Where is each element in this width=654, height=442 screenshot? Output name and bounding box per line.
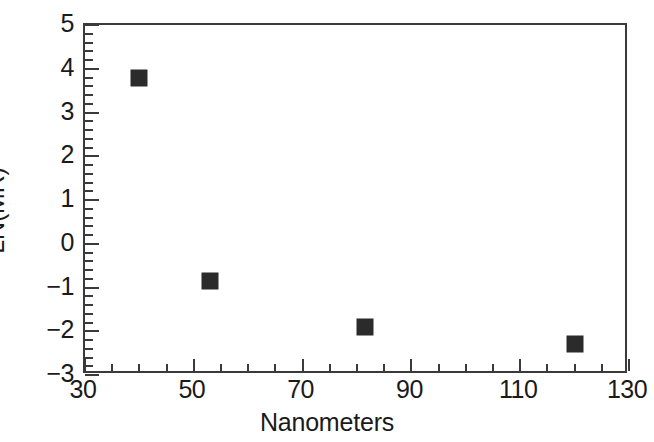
y-tick-minor bbox=[85, 269, 93, 271]
x-tick-label: 50 bbox=[178, 377, 205, 402]
y-tick-label: 4 bbox=[0, 54, 74, 79]
x-tick-major bbox=[302, 359, 304, 371]
y-tick-major bbox=[85, 155, 99, 157]
x-tick-minor bbox=[574, 364, 576, 371]
x-tick-major bbox=[628, 359, 630, 371]
y-tick-minor bbox=[85, 208, 93, 210]
data-point-marker bbox=[357, 318, 374, 335]
y-tick-minor bbox=[85, 278, 93, 280]
y-tick-minor bbox=[85, 357, 93, 359]
y-tick-minor bbox=[85, 59, 93, 61]
y-tick-major bbox=[85, 287, 99, 289]
x-tick-label: 90 bbox=[396, 377, 423, 402]
x-tick-major bbox=[519, 359, 521, 371]
y-tick-minor bbox=[85, 182, 93, 184]
y-tick-minor bbox=[85, 164, 93, 166]
y-tick-minor bbox=[85, 42, 93, 44]
y-tick-label: 0 bbox=[0, 229, 74, 254]
y-tick-minor bbox=[85, 225, 93, 227]
x-tick-major bbox=[84, 359, 86, 371]
y-tick-minor bbox=[85, 50, 93, 52]
x-tick-minor bbox=[383, 364, 385, 371]
y-tick-minor bbox=[85, 339, 93, 341]
scatter-chart-figure: LN(MR) 543210−1−2−3 30507090110130 Nanom… bbox=[0, 0, 654, 442]
x-tick-minor bbox=[329, 364, 331, 371]
y-tick-major bbox=[85, 330, 99, 332]
x-tick-minor bbox=[274, 364, 276, 371]
x-tick-minor bbox=[220, 364, 222, 371]
y-tick-minor bbox=[85, 304, 93, 306]
y-tick-label: −1 bbox=[0, 273, 74, 298]
x-tick-minor bbox=[546, 364, 548, 371]
y-tick-major bbox=[85, 374, 99, 376]
y-tick-minor bbox=[85, 33, 93, 35]
y-tick-label: 3 bbox=[0, 98, 74, 123]
x-tick-minor bbox=[111, 364, 113, 371]
y-tick-major bbox=[85, 68, 99, 70]
y-tick-minor bbox=[85, 138, 93, 140]
y-tick-minor bbox=[85, 313, 93, 315]
y-tick-label: −3 bbox=[0, 361, 74, 386]
y-tick-minor bbox=[85, 85, 93, 87]
y-tick-minor bbox=[85, 129, 93, 131]
x-tick-minor bbox=[601, 364, 603, 371]
y-tick-label: 2 bbox=[0, 142, 74, 167]
y-tick-minor bbox=[85, 120, 93, 122]
y-tick-label: 1 bbox=[0, 186, 74, 211]
y-tick-minor bbox=[85, 234, 93, 236]
y-tick-major bbox=[85, 112, 99, 114]
y-tick-minor bbox=[85, 348, 93, 350]
x-tick-minor bbox=[356, 364, 358, 371]
x-tick-major bbox=[410, 359, 412, 371]
x-tick-minor bbox=[492, 364, 494, 371]
y-tick-label: 5 bbox=[0, 11, 74, 36]
y-tick-minor bbox=[85, 252, 93, 254]
y-tick-minor bbox=[85, 173, 93, 175]
y-tick-minor bbox=[85, 147, 93, 149]
y-tick-minor bbox=[85, 94, 93, 96]
y-tick-major bbox=[85, 199, 99, 201]
y-tick-minor bbox=[85, 260, 93, 262]
y-tick-major bbox=[85, 243, 99, 245]
x-tick-label: 130 bbox=[607, 377, 647, 402]
x-tick-minor bbox=[438, 364, 440, 371]
y-tick-label: −2 bbox=[0, 317, 74, 342]
x-tick-minor bbox=[247, 364, 249, 371]
y-tick-minor bbox=[85, 190, 93, 192]
x-tick-major bbox=[193, 359, 195, 371]
x-tick-minor bbox=[138, 364, 140, 371]
y-tick-minor bbox=[85, 322, 93, 324]
y-tick-major bbox=[85, 24, 99, 26]
x-tick-minor bbox=[465, 364, 467, 371]
y-tick-minor bbox=[85, 295, 93, 297]
x-tick-label: 30 bbox=[70, 377, 97, 402]
x-axis-title: Nanometers bbox=[0, 410, 654, 435]
x-tick-minor bbox=[166, 364, 168, 371]
data-point-marker bbox=[566, 336, 583, 353]
data-point-marker bbox=[202, 272, 219, 289]
x-tick-label: 70 bbox=[287, 377, 314, 402]
y-tick-minor bbox=[85, 365, 93, 367]
y-tick-minor bbox=[85, 103, 93, 105]
y-tick-minor bbox=[85, 77, 93, 79]
data-point-marker bbox=[131, 69, 148, 86]
x-tick-label: 110 bbox=[499, 377, 537, 402]
y-tick-minor bbox=[85, 217, 93, 219]
plot-area bbox=[83, 23, 627, 373]
